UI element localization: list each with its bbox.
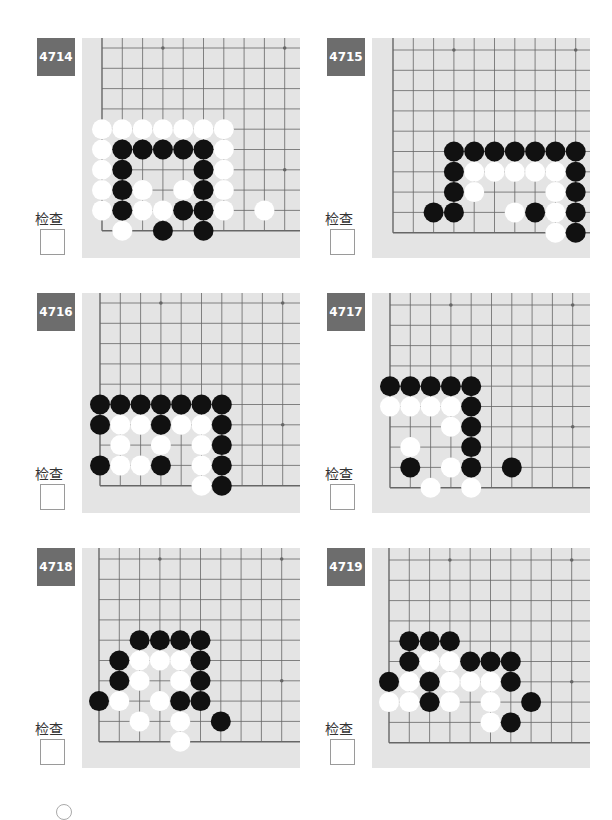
white-stone: [109, 691, 129, 711]
black-stone: [191, 651, 211, 671]
black-stone: [194, 200, 214, 220]
white-stone: [505, 162, 525, 182]
white-stone: [110, 435, 130, 455]
black-stone: [151, 415, 171, 435]
white-stone: [92, 160, 112, 180]
black-stone: [90, 455, 110, 475]
white-stone: [440, 692, 460, 712]
white-stone: [421, 478, 441, 498]
black-stone: [173, 140, 193, 160]
black-stone: [566, 162, 586, 182]
black-stone: [194, 140, 214, 160]
black-stone: [566, 142, 586, 162]
problem-4717: 4717检查: [320, 285, 590, 515]
black-stone: [110, 395, 130, 415]
black-stone: [90, 415, 110, 435]
black-stone: [441, 376, 461, 396]
white-stone: [399, 672, 419, 692]
black-stone: [379, 672, 399, 692]
black-stone: [421, 376, 441, 396]
check-box[interactable]: [330, 739, 355, 765]
white-stone: [192, 435, 212, 455]
white-stone: [379, 692, 399, 712]
problem-number-label: 4719: [327, 548, 365, 586]
black-stone: [89, 691, 109, 711]
black-stone: [501, 712, 521, 732]
black-stone: [212, 435, 232, 455]
white-stone: [92, 119, 112, 139]
white-stone: [420, 652, 440, 672]
check-label: 检查: [35, 718, 63, 738]
go-board: [82, 293, 300, 513]
white-stone: [130, 651, 150, 671]
black-stone: [173, 200, 193, 220]
white-stone: [92, 200, 112, 220]
white-stone: [545, 182, 565, 202]
problem-number-label: 4718: [37, 548, 75, 586]
black-stone: [461, 457, 481, 477]
black-stone: [191, 671, 211, 691]
white-stone: [170, 732, 190, 752]
black-stone: [151, 455, 171, 475]
check-box[interactable]: [330, 484, 355, 510]
white-stone: [151, 435, 171, 455]
black-stone: [380, 376, 400, 396]
check-label: 检查: [325, 463, 353, 483]
white-stone: [170, 671, 190, 691]
black-stone: [109, 651, 129, 671]
white-stone: [92, 180, 112, 200]
black-stone: [212, 476, 232, 496]
problem-4718: 4718检查: [30, 540, 300, 770]
white-stone: [133, 200, 153, 220]
black-stone: [420, 672, 440, 692]
black-stone: [461, 376, 481, 396]
check-box[interactable]: [40, 739, 65, 765]
white-stone: [214, 160, 234, 180]
black-stone: [153, 221, 173, 241]
white-stone: [464, 162, 484, 182]
black-stone: [131, 395, 151, 415]
white-stone: [440, 672, 460, 692]
problem-number-label: 4714: [37, 38, 75, 76]
go-board: [82, 38, 300, 258]
white-stone: [421, 397, 441, 417]
black-stone: [505, 142, 525, 162]
black-stone: [444, 142, 464, 162]
white-stone: [464, 182, 484, 202]
black-stone: [501, 672, 521, 692]
problem-4716: 4716检查: [30, 285, 300, 515]
white-stone: [150, 651, 170, 671]
white-stone: [214, 119, 234, 139]
black-stone: [191, 691, 211, 711]
black-stone: [521, 692, 541, 712]
white-stone: [481, 712, 501, 732]
white-stone: [173, 180, 193, 200]
white-stone: [150, 691, 170, 711]
black-stone: [444, 202, 464, 222]
black-stone: [112, 160, 132, 180]
white-stone: [441, 457, 461, 477]
white-stone: [153, 200, 173, 220]
black-stone: [133, 140, 153, 160]
white-stone: [192, 415, 212, 435]
black-stone: [151, 395, 171, 415]
black-stone: [566, 223, 586, 243]
black-stone: [192, 395, 212, 415]
black-stone: [212, 455, 232, 475]
black-stone: [420, 692, 440, 712]
black-stone: [464, 142, 484, 162]
go-board: [372, 293, 590, 513]
black-stone: [460, 652, 480, 672]
white-stone: [130, 671, 150, 691]
black-stone: [485, 142, 505, 162]
black-stone: [461, 397, 481, 417]
check-box[interactable]: [40, 484, 65, 510]
white-stone: [170, 711, 190, 731]
white-stone: [214, 180, 234, 200]
black-stone: [130, 630, 150, 650]
check-box[interactable]: [40, 229, 65, 255]
black-stone: [399, 652, 419, 672]
check-box[interactable]: [330, 229, 355, 255]
white-stone: [130, 711, 150, 731]
black-stone: [109, 671, 129, 691]
